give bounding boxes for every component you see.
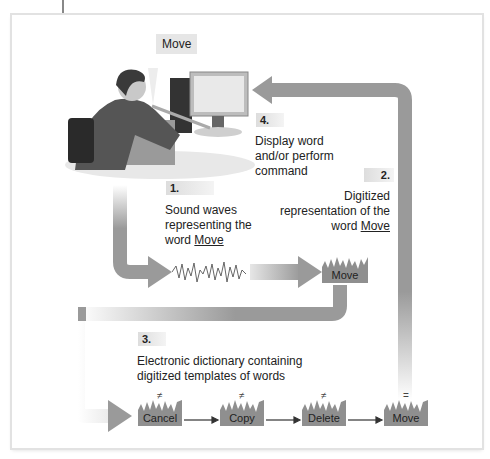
template-copy: Copy [220,400,264,426]
digitized-word-label: Move [322,269,368,281]
template-word: Copy [220,412,264,424]
step-1-line: word Move [165,233,252,248]
template-delete: Delete [302,400,346,426]
template-word: Delete [302,412,346,424]
step-2-word: Move [361,219,390,233]
template-cancel: Cancel [138,400,182,426]
step-4-text: Display word and/or perform command [255,134,334,179]
step-2-line: Digitized [280,189,390,204]
speech-bubble: Move [156,34,197,54]
step-3-line: digitized templates of words [137,369,302,384]
step-1-line: Sound waves [165,203,252,218]
person-at-computer-illustration [60,60,260,180]
step-4-line: Display word [255,134,334,149]
step-1-text: Sound waves representing the word Move [165,203,252,248]
step-4-line: and/or perform [255,149,334,164]
step-2-number: 2. [364,168,394,182]
step-2-line: word Move [280,219,390,234]
step-3-text: Electronic dictionary containing digitiz… [137,354,302,384]
step-2-text: Digitized representation of the word Mov… [280,189,390,234]
step-1-line: representing the [165,218,252,233]
sound-wave-icon [172,258,248,286]
step-3-line: Electronic dictionary containing [137,354,302,369]
step-4-line: command [255,164,334,179]
step-2-line: representation of the [280,204,390,219]
template-word: Cancel [138,412,182,424]
step-1-number: 1. [166,181,214,195]
template-move: Move [384,400,428,426]
template-word: Move [384,412,428,424]
step-2-prefix: word [331,219,360,233]
digitized-word-block: Move [322,257,368,283]
step-1-prefix: word [165,233,194,247]
step-1-word: Move [194,233,223,247]
step-4-number: 4. [256,113,284,127]
step-3-number: 3. [138,332,166,346]
